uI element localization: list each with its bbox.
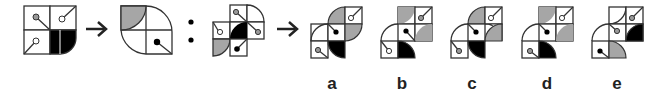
option-d-label[interactable]: d xyxy=(542,74,552,94)
option-e-figure[interactable] xyxy=(592,7,643,58)
option-d-figure[interactable] xyxy=(522,7,573,58)
option-c-figure[interactable] xyxy=(451,7,502,58)
option-c-label[interactable]: c xyxy=(467,74,476,94)
option-e-label[interactable]: e xyxy=(612,74,621,94)
option-a-figure[interactable] xyxy=(311,7,362,58)
option-a-label[interactable]: a xyxy=(327,74,336,94)
separator-colon xyxy=(188,19,193,42)
option-b-figure[interactable] xyxy=(381,7,432,58)
figure-query xyxy=(213,5,264,56)
arrow-icon xyxy=(86,22,106,36)
figure-source-b xyxy=(121,6,172,54)
figure-source-a xyxy=(24,6,76,54)
option-b-label[interactable]: b xyxy=(397,74,407,94)
arrow-icon xyxy=(277,22,297,36)
